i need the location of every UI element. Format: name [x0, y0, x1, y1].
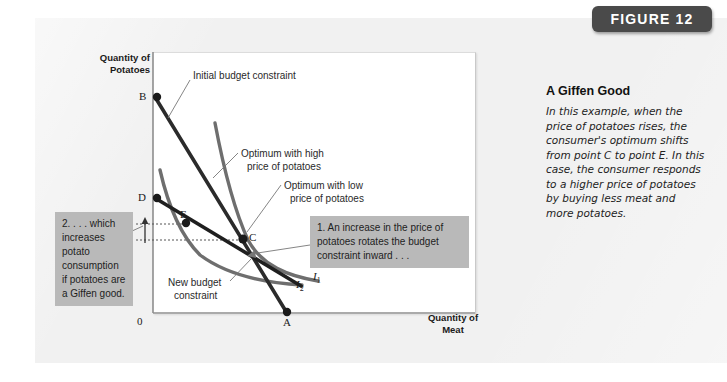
point-marker-d	[153, 194, 161, 202]
leader-optimum-low	[247, 185, 281, 232]
point-label-a: A	[283, 316, 291, 328]
annotation-optimum-high-2: price of potatoes	[247, 160, 321, 173]
sidebar-title: A Giffen Good	[546, 84, 706, 98]
point-marker-b	[153, 93, 161, 101]
quantity-increase-arrowhead	[142, 217, 149, 224]
point-label-e: E	[180, 208, 187, 220]
point-label-c: C	[249, 231, 256, 243]
leader-initial-budget	[168, 80, 190, 118]
figure-number-badge: FIGURE 12	[592, 6, 712, 32]
callout-price-increase: 1. An increase in the price of potatoes …	[310, 216, 469, 268]
annotation-new-budget-2: constraint	[174, 289, 217, 302]
annotation-optimum-high-1: Optimum with high	[241, 147, 324, 160]
annotation-optimum-low-2: price of potatoes	[290, 192, 364, 205]
new-budget-constraint	[155, 198, 301, 286]
curve-label-i1: I1	[313, 270, 321, 285]
y-axis-title: Quantity of Potatoes	[74, 52, 150, 76]
curve-label-i2: I2	[296, 278, 304, 293]
annotation-optimum-low-1: Optimum with low	[284, 179, 363, 192]
leader-callout-1	[251, 245, 310, 254]
callout-potato-consumption: 2. . . . which increases potato consumpt…	[55, 212, 133, 306]
point-marker-a	[283, 308, 291, 316]
point-label-d: D	[138, 191, 146, 203]
annotation-new-budget-1: New budget	[168, 276, 221, 289]
point-label-b: B	[139, 90, 146, 102]
point-marker-e	[182, 219, 190, 227]
annotation-initial-budget: Initial budget constraint	[193, 69, 296, 82]
x-axis-title: Quantity of Meat	[420, 312, 486, 336]
point-marker-c	[238, 234, 247, 243]
sidebar-description: In this example, when the price of potat…	[546, 104, 706, 220]
origin-label: 0	[137, 315, 143, 327]
